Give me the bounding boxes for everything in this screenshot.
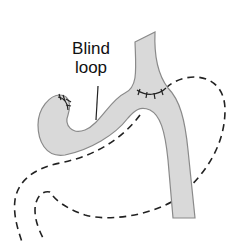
blind-loop-label-line2: loop: [66, 58, 116, 77]
blind-loop-label: Blind loop: [66, 39, 116, 77]
diagram-canvas: Blind loop: [0, 0, 245, 249]
esophagus-jejunum-tube: [38, 32, 195, 218]
anatomy-drawing: [0, 0, 245, 249]
blind-loop-label-line1: Blind: [66, 39, 116, 58]
blind-loop-leader-line: [96, 86, 98, 120]
duodenum-inner-dashed: [35, 192, 50, 240]
